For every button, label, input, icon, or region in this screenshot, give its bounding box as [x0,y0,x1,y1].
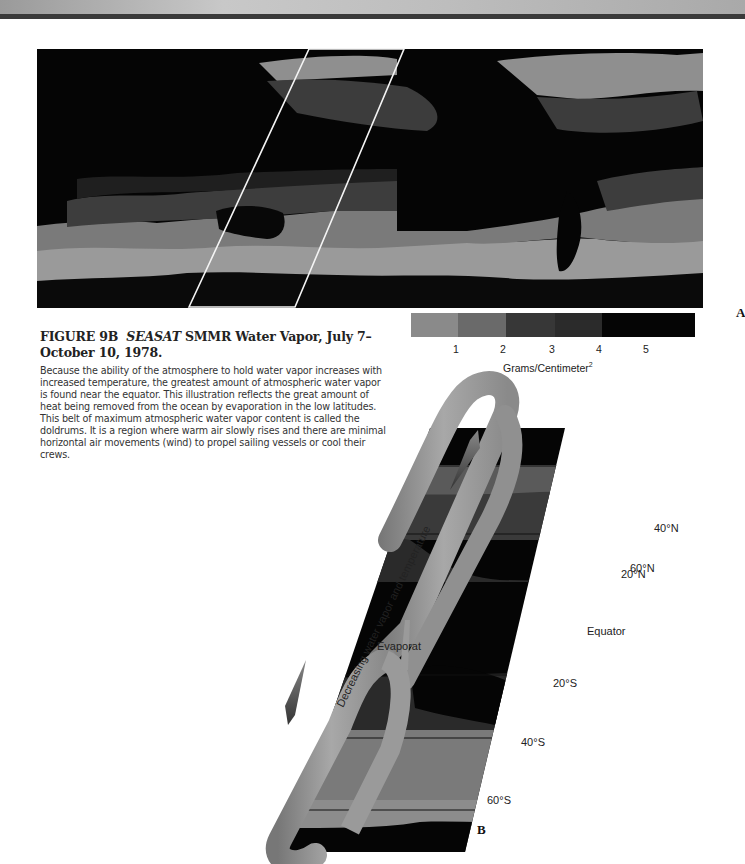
legend-swatch-3 [555,313,602,337]
lat-20s: 20°S [553,677,577,689]
figure-title: FIGURE 9B SEASAT SMMR Water Vapor, July … [40,329,388,361]
legend-tick: 5 [643,343,649,355]
lat-60s: 60°S [487,794,511,806]
legend-tick: 4 [596,343,602,355]
legend-swatch-0 [411,313,458,337]
legend-tick: 1 [453,343,459,355]
legend: 1 2 3 4 5 Grams/Centimeter2 [411,313,695,374]
legend-tick: 3 [549,343,555,355]
page-banner [0,0,745,14]
legend-swatch-1 [458,313,506,337]
lat-40s: 40°S [521,736,545,748]
legend-tick: 2 [500,343,506,355]
legend-ticks: 1 2 3 4 5 [411,343,695,359]
legend-swatch-2 [506,313,555,337]
panel-b-label: B [477,822,486,838]
water-vapor-map [37,41,703,308]
circulation-diagram: Decreasing water vapor and temperature [240,370,745,864]
lat-40n: 40°N [654,522,679,534]
lat-20n: 20°N [621,568,646,580]
down-arrow-icon [285,660,306,725]
lat-equator: Equator [587,625,626,637]
legend-color-bar [411,313,695,337]
banner-rule [0,14,745,19]
evaporation-label: Evaporat [377,640,421,652]
panel-a-label: A [736,305,745,321]
legend-swatch-4 [602,313,695,337]
